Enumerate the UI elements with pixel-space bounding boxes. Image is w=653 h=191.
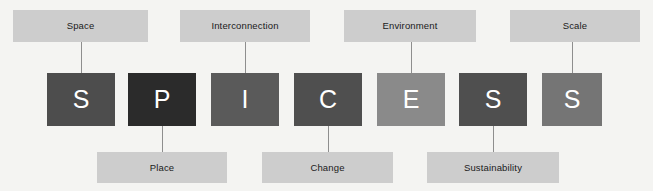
- concept-label-environment[interactable]: Environment: [344, 10, 476, 42]
- letter-tile-interconnection[interactable]: I: [211, 73, 279, 126]
- concept-label-sustainability[interactable]: Sustainability: [427, 152, 559, 183]
- letter-tile-sustainability[interactable]: S: [459, 73, 527, 126]
- concept-label-change[interactable]: Change: [262, 152, 393, 183]
- letter-tile-scale[interactable]: S: [542, 73, 602, 126]
- connector-environment: [411, 42, 412, 73]
- connector-change: [328, 126, 329, 152]
- spicess-diagram: SpaceInterconnectionEnvironmentScale SPI…: [0, 0, 653, 191]
- connector-scale: [572, 42, 573, 73]
- concept-label-space[interactable]: Space: [13, 10, 148, 42]
- connector-space: [81, 42, 82, 73]
- connector-sustainability: [493, 126, 494, 152]
- connector-place: [162, 126, 163, 152]
- connector-interconnection: [245, 42, 246, 73]
- concept-label-interconnection[interactable]: Interconnection: [180, 10, 310, 42]
- letter-tile-environment[interactable]: E: [377, 73, 445, 126]
- letter-tile-place[interactable]: P: [128, 73, 196, 126]
- concept-label-place[interactable]: Place: [97, 152, 227, 183]
- letter-tile-space[interactable]: S: [47, 73, 115, 126]
- letter-tile-change[interactable]: C: [294, 73, 362, 126]
- concept-label-scale[interactable]: Scale: [510, 10, 640, 42]
